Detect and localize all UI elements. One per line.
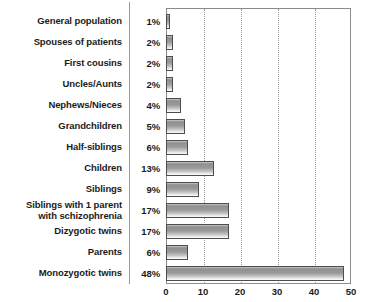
x-tick-label: 0 [163, 286, 168, 297]
category-label: Siblings [0, 179, 122, 200]
value-label: 4% [131, 95, 160, 116]
bar [166, 245, 188, 260]
bar [166, 56, 173, 71]
category-label: Spouses of patients [0, 32, 122, 53]
value-label: 5% [131, 116, 160, 137]
bar [166, 161, 214, 176]
bar [166, 77, 173, 92]
x-tick-label: 30 [272, 286, 283, 297]
value-label: 2% [131, 53, 160, 74]
category-label: Parents [0, 242, 122, 263]
bar [166, 266, 344, 281]
category-label: General population [0, 11, 122, 32]
bar [166, 119, 185, 134]
x-tick-label: 50 [346, 286, 357, 297]
category-label: Monozygotic twins [0, 263, 122, 284]
schizophrenia-risk-bar-chart: General population1%Spouses of patients2… [0, 0, 365, 302]
value-label: 48% [131, 263, 160, 284]
value-label: 2% [131, 74, 160, 95]
value-label: 17% [131, 200, 160, 221]
category-label: Uncles/Aunts [0, 74, 122, 95]
category-label: Nephews/Nieces [0, 95, 122, 116]
x-tick-label: 40 [309, 286, 320, 297]
category-label: Grandchildren [0, 116, 122, 137]
value-label: 6% [131, 137, 160, 158]
bar [166, 35, 173, 50]
bar [166, 98, 181, 113]
bar [166, 224, 229, 239]
bar [166, 140, 188, 155]
x-tick-label: 10 [198, 286, 209, 297]
value-label: 17% [131, 221, 160, 242]
category-label: Dizygotic twins [0, 221, 122, 242]
value-label: 2% [131, 32, 160, 53]
category-label: Children [0, 158, 122, 179]
value-label: 9% [131, 179, 160, 200]
value-label: 1% [131, 11, 160, 32]
bar [166, 203, 229, 218]
category-label: First cousins [0, 53, 122, 74]
value-label: 6% [131, 242, 160, 263]
bar [166, 182, 199, 197]
x-axis: 01020304050 [166, 286, 351, 300]
value-label: 13% [131, 158, 160, 179]
category-label: Siblings with 1 parent with schizophreni… [0, 200, 122, 221]
bar-series [166, 8, 351, 284]
x-tick-label: 20 [235, 286, 246, 297]
bar [166, 14, 170, 29]
category-label: Half-siblings [0, 137, 122, 158]
